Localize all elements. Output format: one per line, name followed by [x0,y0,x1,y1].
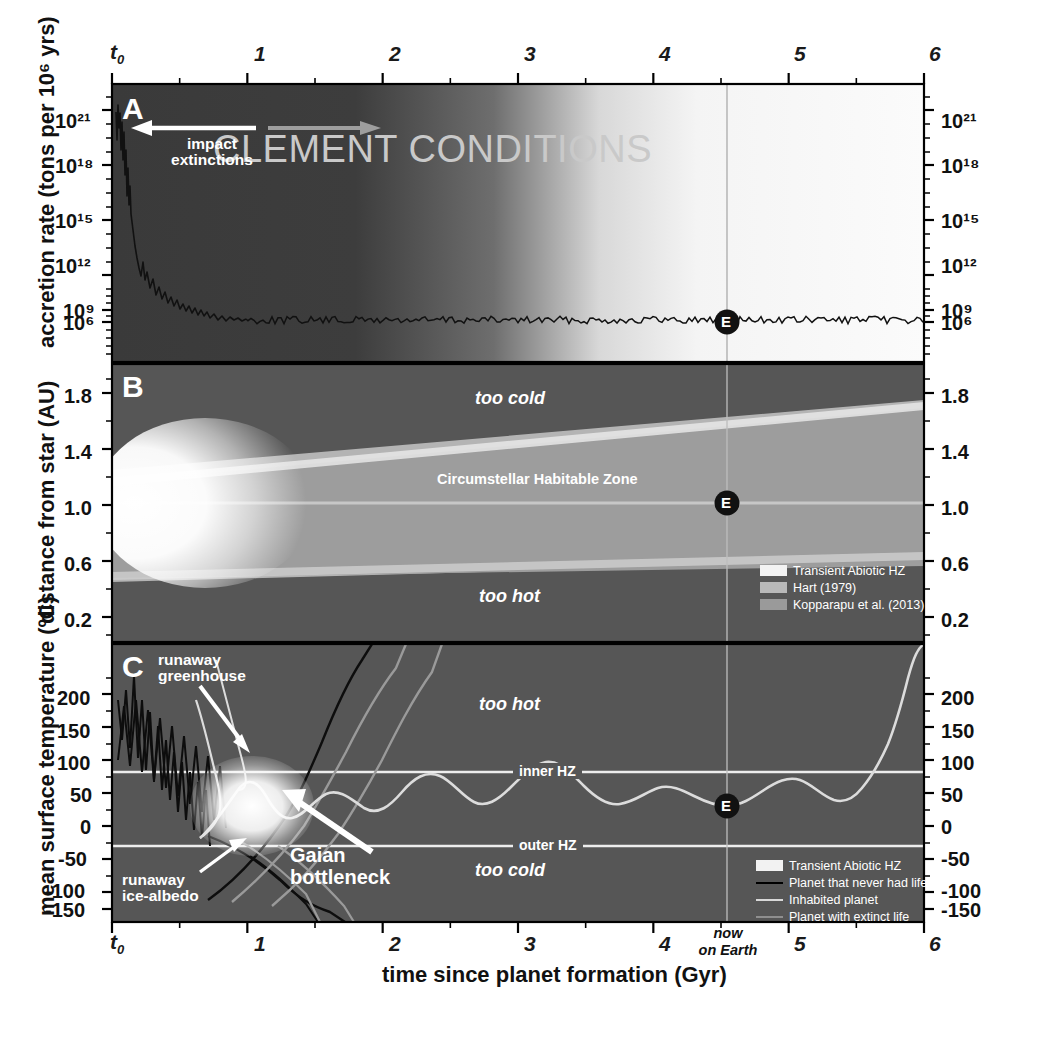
panel-c-ytick-0: 200 [57,687,90,710]
runaway-ice-line2: ice-albedo [122,888,199,904]
panel-c-ytick-r4: 0 [941,816,952,839]
panel-c-outer-hz-label: outer HZ [513,837,583,853]
impact-label-line1: impact [157,136,267,152]
legend-swatch-transient-abiotic-hz [760,565,787,576]
runaway-greenhouse-line2: greenhouse [158,668,246,684]
x-tick-label-bot-2: 2 [389,932,401,956]
panel-b-letter: B [122,370,144,404]
x-tick-label-bot-3: 3 [524,932,536,956]
panel-b-y-axis-title: distance from star (AU) [34,381,60,624]
panel-b-ytick-r4: 0.2 [941,609,969,632]
runaway-ice-line1: runaway [122,872,199,888]
panel-b-too-hot: too hot [479,586,540,607]
panel-b-ytick-r2: 1.0 [941,497,969,520]
clement-conditions-banner: CLEMENT CONDITIONS [213,128,652,171]
panel-a-ytick-2: 10¹⁵ [55,210,93,233]
runaway-ice-albedo-label: runaway ice-albedo [122,872,199,905]
earth-marker-label-a: E [721,313,731,330]
gaian-line1: Gaian [290,845,390,867]
panel-c-ytick-r2: 100 [941,752,974,775]
x-tick-label-t0: t0 [110,40,124,67]
impact-label-line2: extinctions [157,152,267,168]
earth-marker-label-b: E [721,494,731,511]
panel-c-inner-hz-label: inner HZ [513,763,582,779]
x-tick-label-top-3: 3 [524,42,536,66]
panel-c-ytick-r7: -150 [941,899,981,922]
legend-label: Transient Abiotic HZ [789,859,901,873]
panel-b-legend: Transient Abiotic HZ Hart (1979) Koppara… [760,563,924,614]
panel-b-hz-label: Circumstellar Habitable Zone [437,471,638,487]
panel-b-ytick-1: 1.4 [64,441,92,464]
gaian-bottleneck-label: Gaian bottleneck [290,845,390,888]
panel-c-letter: C [122,650,144,684]
legend-swatch-hart-1979 [760,582,787,593]
x-tick-label-bot-t0: t0 [110,930,124,957]
now-label-line1: now [688,925,768,942]
legend-label: Planet that never had life [789,876,927,890]
legend-line-extinct-life [756,916,783,918]
gaian-line2: bottleneck [290,867,390,889]
legend-item: Planet with extinct life [756,909,927,924]
legend-item: Planet that never had life [756,875,927,890]
panel-c-y-axis-title: mean surface temperature (ºC) [34,596,60,916]
panel-a-ytick-3: 10¹² [55,255,91,278]
panel-a-ytick-1: 10¹⁸ [55,155,93,178]
panel-b-ytick-r3: 0.6 [941,553,969,576]
panel-b-ytick-2: 1.0 [64,497,92,520]
earth-marker-label-c: E [721,797,731,814]
panel-b-ytick-0: 1.8 [64,385,92,408]
panel-c-too-cold: too cold [475,860,545,881]
legend-item: Transient Abiotic HZ [760,563,924,578]
panel-b-ytick-r1: 1.4 [941,441,969,464]
x-tick-label-top-4: 4 [659,42,671,66]
panel-b-ytick-3: 0.6 [64,553,92,576]
panel-b-too-cold: too cold [475,388,545,409]
x-tick-label-bot-5: 5 [794,932,806,956]
legend-line-inhabited-planet [756,899,783,901]
panel-a-ytick-r0: 10²¹ [941,110,977,133]
legend-label: Kopparapu et al. (2013) [793,598,924,612]
runaway-greenhouse-label: runaway greenhouse [158,652,246,685]
x-tick-label-bot-1: 1 [254,932,266,956]
panel-a-ytick-r5: 10⁶ [941,312,972,335]
x-tick-label-top-5: 5 [794,42,806,66]
panel-c-ytick-1: 150 [57,720,90,743]
panel-c-legend: Transient Abiotic HZ Planet that never h… [756,858,927,926]
legend-label: Inhabited planet [789,893,878,907]
panel-a-ytick-r2: 10¹⁵ [941,210,979,233]
legend-swatch-transient-abiotic-hz [756,860,783,871]
panel-a-ytick-5: 10⁶ [63,312,94,335]
panel-a-ytick-r1: 10¹⁸ [941,155,979,178]
panel-c-ytick-r3: 50 [941,784,963,807]
panel-a-ytick-0: 10²¹ [55,110,91,133]
x-tick-label-top-6: 6 [929,42,941,66]
legend-item: Hart (1979) [760,580,924,595]
panel-c-ytick-4: 0 [80,816,91,839]
panel-a-ytick-r3: 10¹² [941,255,977,278]
x-tick-label-top-1: 1 [254,42,266,66]
panel-b-ytick-4: 0.2 [64,609,92,632]
panel-c-ytick-3: 50 [70,784,92,807]
legend-item: Transient Abiotic HZ [756,858,927,873]
x-axis-title: time since planet formation (Gyr) [382,962,727,988]
legend-label: Planet with extinct life [789,910,909,924]
panel-a-letter: A [122,92,144,126]
legend-label: Transient Abiotic HZ [793,564,905,578]
impact-extinctions-label: impact extinctions [157,136,267,169]
now-on-earth-label: now on Earth [688,925,768,958]
panel-a-y-axis-title: accretion rate (tons per 10⁶ yrs) [34,16,60,348]
legend-label: Hart (1979) [793,581,856,595]
panel-c-ytick-5: -50 [58,848,87,871]
legend-item: Inhabited planet [756,892,927,907]
x-tick-label-top-2: 2 [389,42,401,66]
legend-item: Kopparapu et al. (2013) [760,597,924,612]
top-axis-ticks [112,73,924,84]
panel-c-ytick-r0: 200 [941,687,974,710]
panel-c-ytick-2: 100 [57,752,90,775]
panel-b-ytick-r0: 1.8 [941,385,969,408]
panel-c-ytick-r5: -50 [941,848,970,871]
panel-a-plot [112,84,924,362]
now-label-line2: on Earth [688,942,768,959]
legend-swatch-kopparapu-2013 [760,599,787,610]
legend-line-never-had-life [756,882,783,884]
